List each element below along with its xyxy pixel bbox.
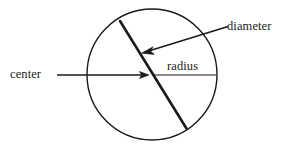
diameter-pointer-arrow: [142, 27, 229, 55]
circle-parts-diagram: center radius diameter: [0, 0, 285, 147]
label-radius: radius: [167, 60, 198, 73]
label-center: center: [10, 68, 41, 81]
center-pointer-arrow: [57, 72, 149, 79]
label-diameter: diameter: [227, 20, 272, 33]
